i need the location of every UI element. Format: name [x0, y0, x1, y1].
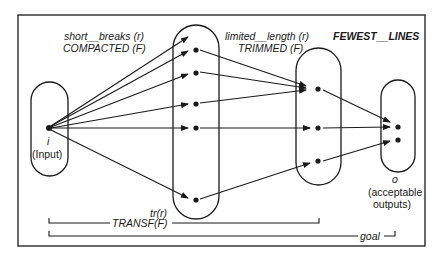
set-points [46, 47, 401, 202]
output-caption-line1: (acceptable [368, 186, 422, 198]
transformation-diagram: short__breaks (r) COMPACTED (F) limited_… [0, 0, 444, 261]
arrows-trimmed-to-output [323, 90, 390, 161]
output-symbol: o [392, 173, 398, 185]
output-caption-line2: outputs) [373, 198, 411, 210]
stage2-function-label: TRIMMED (F) [238, 42, 303, 54]
trimmed-set-capsule [296, 48, 341, 185]
stage1-relation-label: short__breaks (r) [64, 30, 144, 42]
goal-bracket [49, 231, 395, 236]
goal-label: goal [360, 230, 381, 242]
transf-function-label: TRANSF(F) [112, 217, 167, 229]
stage3-function-label: FEWEST__LINES [333, 30, 419, 42]
arrows-compacted-to-trimmed [200, 50, 310, 199]
stage2-relation-label: limited__length (r) [225, 30, 309, 42]
stage1-function-label: COMPACTED (F) [63, 42, 146, 54]
input-symbol: i [47, 135, 50, 147]
input-caption: (Input) [32, 148, 62, 160]
transf-bracket [49, 218, 319, 223]
arrows-input-to-compacted [51, 37, 188, 198]
